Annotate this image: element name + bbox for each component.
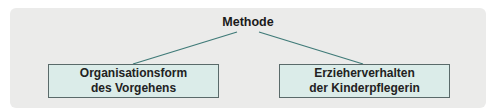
child-node-organisationsform: Organisationsform des Vorgehens <box>48 64 219 98</box>
child-node-line1: Organisationsform <box>80 66 187 81</box>
child-node-line2: des Vorgehens <box>80 81 187 96</box>
connector-right <box>259 32 363 64</box>
child-node-erzieherverhalten: Erzieherverhalten der Kinderpflegerin <box>279 64 450 98</box>
connector-left <box>133 32 237 64</box>
child-node-line1: Erzieherverhalten <box>309 66 420 81</box>
root-node-methode: Methode <box>198 15 298 29</box>
child-node-line2: der Kinderpflegerin <box>309 81 420 96</box>
